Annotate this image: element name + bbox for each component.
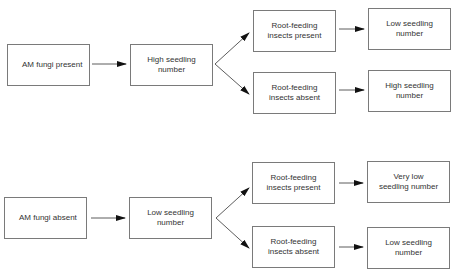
node-label: Root-feeding insects absent [269, 83, 320, 103]
node-label: High seedling number [147, 55, 195, 75]
node-outcome-high-seedling-top: High seedling number [368, 70, 451, 112]
node-am-fungi-present: AM fungi present [7, 44, 90, 86]
node-low-seedling-number: Low seedling number [129, 197, 212, 239]
node-outcome-low-seedling-bottom: Low seedling number [367, 227, 450, 269]
node-label: Low seedling number [147, 208, 194, 228]
node-label: Very low seedling number [379, 172, 438, 192]
node-label: High seedling number [385, 81, 433, 101]
node-outcome-very-low-seedling-bottom: Very low seedling number [367, 161, 450, 203]
node-outcome-low-seedling-top: Low seedling number [368, 8, 451, 50]
node-high-seedling-number: High seedling number [130, 44, 213, 86]
node-root-feeding-absent-bottom: Root-feeding insects absent [252, 226, 335, 268]
node-label: Low seedling number [385, 238, 432, 258]
node-root-feeding-present-bottom: Root-feeding insects present [252, 162, 335, 204]
node-am-fungi-absent: AM fungi absent [4, 197, 87, 239]
node-label: Low seedling number [386, 19, 433, 39]
arrow-middle-to-lower-branch-top [215, 64, 249, 94]
arrow-middle-to-upper-branch-top [215, 33, 249, 64]
arrow-middle-to-upper-branch-bottom [216, 188, 249, 218]
arrow-middle-to-lower-branch-bottom [216, 218, 249, 248]
node-label: AM fungi present [22, 60, 82, 70]
node-label: AM fungi absent [19, 213, 77, 223]
node-root-feeding-present-top: Root-feeding insects present [253, 10, 336, 52]
node-root-feeding-absent-top: Root-feeding insects absent [253, 72, 336, 114]
node-label: Root-feeding insects present [268, 21, 322, 41]
node-label: Root-feeding insects present [267, 173, 321, 193]
node-label: Root-feeding insects absent [268, 237, 319, 257]
